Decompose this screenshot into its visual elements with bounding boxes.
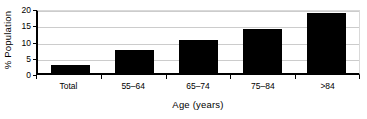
y-tick-label: 0 xyxy=(14,71,31,80)
bar-slot xyxy=(102,11,166,73)
x-tick-label: 55–64 xyxy=(101,81,166,91)
bar xyxy=(243,29,282,73)
bar-slot xyxy=(166,11,230,73)
y-tick-mark xyxy=(33,26,37,27)
x-axis-title: Age (years) xyxy=(36,99,360,110)
y-tick-label: 20 xyxy=(14,6,31,15)
y-tick-mark xyxy=(33,43,37,44)
bar xyxy=(179,40,218,73)
x-tick-label: 65–74 xyxy=(166,81,231,91)
bar xyxy=(307,13,346,73)
bar-series xyxy=(38,11,359,73)
bar xyxy=(51,65,90,73)
x-axis: Total55–6465–7475–84>84 xyxy=(36,75,360,95)
x-tick-mark xyxy=(359,75,360,79)
y-tick-label: 15 xyxy=(14,22,31,31)
bar-slot xyxy=(38,11,102,73)
x-axis-tick-labels: Total55–6465–7475–84>84 xyxy=(36,81,360,91)
y-tick-mark xyxy=(33,59,37,60)
x-tick-mark xyxy=(101,75,102,79)
x-tick-label: Total xyxy=(36,81,101,91)
x-tick-label: 75–84 xyxy=(230,81,295,91)
bar-slot xyxy=(231,11,295,73)
y-axis-tick-labels: 05101520 xyxy=(14,10,31,75)
y-tick-label: 5 xyxy=(14,55,31,64)
bar-slot xyxy=(295,11,359,73)
x-tick-mark xyxy=(166,75,167,79)
x-tick-mark xyxy=(295,75,296,79)
y-tick-mark xyxy=(33,75,37,76)
x-tick-mark xyxy=(230,75,231,79)
bar xyxy=(115,50,154,73)
y-tick-mark xyxy=(33,10,37,11)
plot-area xyxy=(36,10,360,75)
bar-chart-figure: % Population 05101520 Total55–6465–7475–… xyxy=(0,0,367,119)
x-tick-label: >84 xyxy=(295,81,360,91)
y-tick-label: 10 xyxy=(14,38,31,47)
